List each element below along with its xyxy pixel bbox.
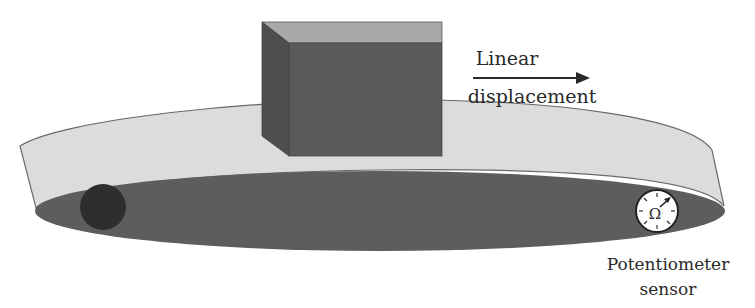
sensor-label-line1: Potentiometer xyxy=(598,254,738,274)
arrow-right-icon xyxy=(473,72,590,84)
moving-box xyxy=(262,22,442,156)
diagram-canvas: Ω Linear displacement Potentiometer sens… xyxy=(0,0,755,308)
box-top-face xyxy=(262,22,442,43)
motion-label-line2: displacement xyxy=(462,85,602,107)
box-front-face xyxy=(289,43,442,156)
belt-floor xyxy=(35,171,725,251)
box-side-face xyxy=(262,22,289,156)
ohm-symbol: Ω xyxy=(649,205,661,223)
motion-label-line1: Linear xyxy=(462,47,552,69)
pulley-icon xyxy=(80,184,126,230)
potentiometer-dial-icon: Ω xyxy=(636,190,678,232)
sensor-label-line2: sensor xyxy=(598,279,738,299)
